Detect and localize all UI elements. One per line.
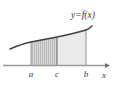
curve-label: y=f(x) — [70, 10, 95, 21]
axis-tick-label-b: b — [84, 69, 89, 79]
figure-container: y=f(x) a c b x — [0, 0, 119, 87]
axis-tick-label-a: a — [29, 69, 34, 79]
x-axis-arrowhead — [105, 63, 110, 68]
axis-tick-label-c: c — [55, 69, 59, 79]
region-c-to-b — [57, 30, 86, 65]
area-under-curve-diagram: y=f(x) a c b x — [0, 0, 119, 87]
x-axis-label: x — [101, 70, 106, 80]
